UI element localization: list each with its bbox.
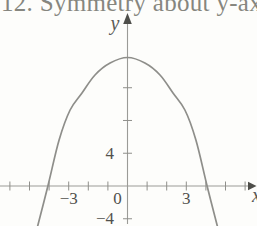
y-axis-arrowhead-icon bbox=[123, 13, 132, 24]
x-axis-label: x bbox=[251, 184, 257, 206]
figure-panel: 12. Symmetry about y-axis −3034−4yx bbox=[0, 0, 257, 226]
y-tick-label: 4 bbox=[106, 144, 115, 163]
x-tick-label: 0 bbox=[113, 189, 122, 208]
graph: −3034−4yx bbox=[0, 0, 257, 226]
y-axis-label: y bbox=[109, 12, 120, 35]
x-tick-label: −3 bbox=[60, 189, 78, 208]
y-tick-label: −4 bbox=[96, 209, 115, 226]
x-tick-label: 3 bbox=[182, 189, 191, 208]
